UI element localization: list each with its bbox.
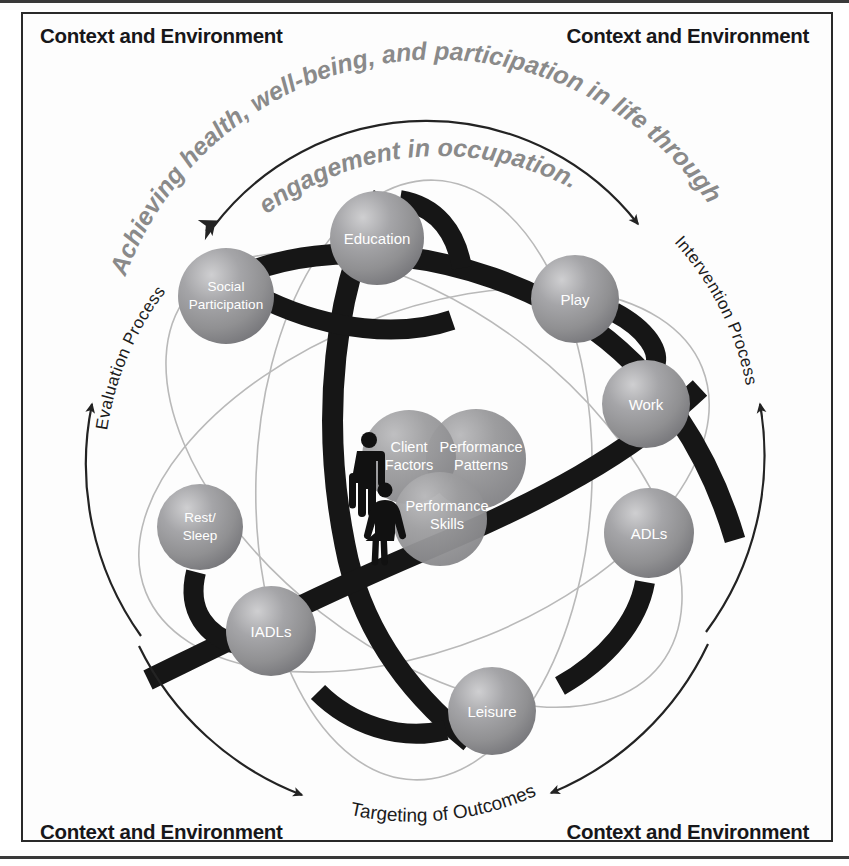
- page-bottom-rule: [0, 856, 849, 859]
- corner-label-bottom-right: Context and Environment: [566, 820, 809, 844]
- diagram-canvas: Context and Environment Context and Envi…: [0, 0, 849, 866]
- page-top-rule: [0, 0, 849, 3]
- diagram-frame: [21, 12, 833, 842]
- corner-label-bottom-left: Context and Environment: [40, 820, 283, 844]
- corner-label-top-left: Context and Environment: [40, 24, 283, 48]
- corner-label-top-right: Context and Environment: [566, 24, 809, 48]
